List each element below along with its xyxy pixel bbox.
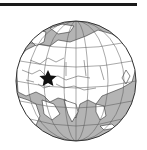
locator-globe [0,0,147,150]
